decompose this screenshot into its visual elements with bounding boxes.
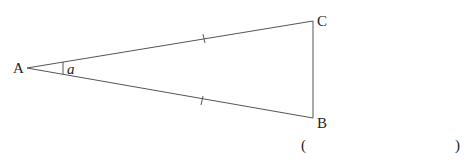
angle-label: a [67,61,75,77]
answer-paren-close: ) [455,137,460,154]
vertex-label-c: C [317,13,327,29]
vertex-label-b: B [317,115,327,131]
triangle-diagram: A C B a ( ) [0,0,467,167]
tick-mark-ab [201,96,203,105]
vertex-label-a: A [13,60,24,76]
answer-paren-open: ( [301,137,306,154]
